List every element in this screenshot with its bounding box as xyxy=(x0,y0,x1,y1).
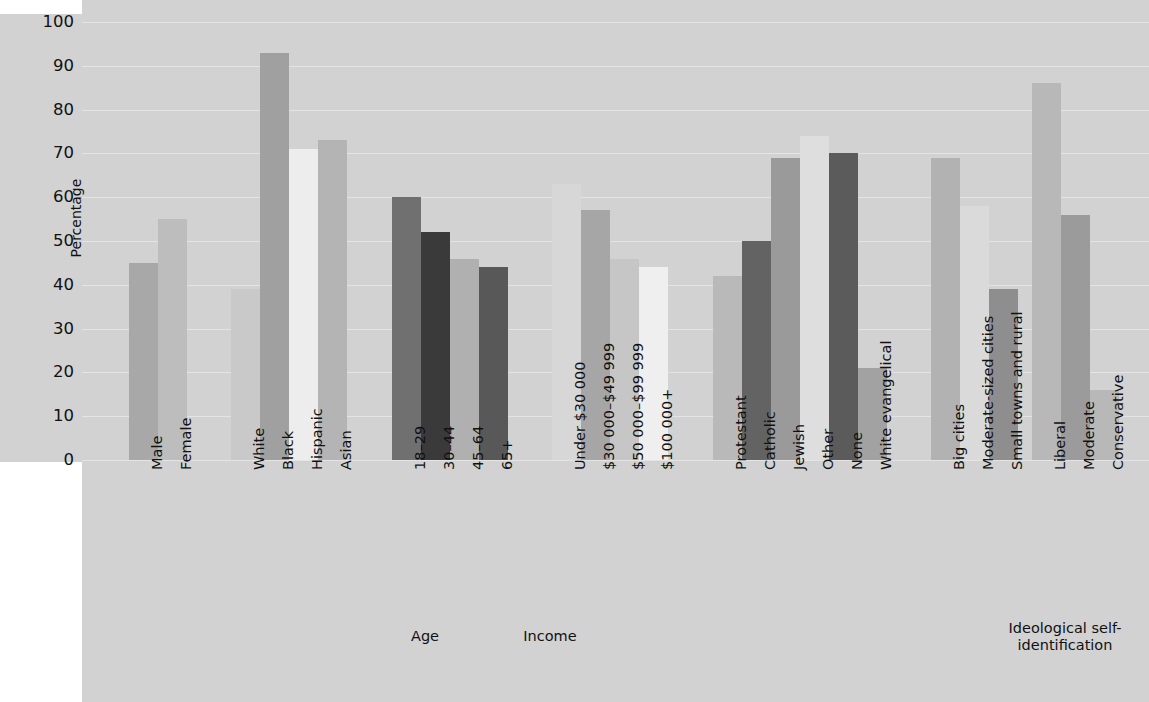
y-tick-label: 90 xyxy=(18,58,74,74)
y-tick-label: 40 xyxy=(18,277,74,293)
x-tick-label: Other xyxy=(821,429,836,470)
x-tick-label: 30–44 xyxy=(442,426,457,470)
y-tick-label: 0 xyxy=(18,452,74,468)
bar-chart-figure: 0102030405060708090100 Percentage MaleFe… xyxy=(0,0,1149,702)
x-tick-label: Hispanic xyxy=(310,408,325,470)
x-tick-label: None xyxy=(850,432,865,470)
x-tick-label: White evangelical xyxy=(879,341,894,470)
y-tick-label: 20 xyxy=(18,364,74,380)
y-axis-title: Percentage xyxy=(68,138,84,298)
x-tick-label: Liberal xyxy=(1053,421,1068,470)
y-tick-label: 30 xyxy=(18,321,74,337)
x-tick-label: $50 000–$99 999 xyxy=(631,343,646,470)
x-tick-label: Catholic xyxy=(763,411,778,470)
x-tick-label: White xyxy=(252,428,267,470)
y-tick-label: 80 xyxy=(18,102,74,118)
x-tick-label: Under $30 000 xyxy=(573,362,588,470)
y-tick-label: 60 xyxy=(18,189,74,205)
y-tick-label: 100 xyxy=(18,14,74,30)
x-tick-label: Moderate xyxy=(1082,401,1097,470)
group-label: Income xyxy=(505,628,595,645)
group-label: Age xyxy=(385,628,465,645)
x-tick-label: Jewish xyxy=(792,424,807,470)
x-tick-label: 45–64 xyxy=(471,426,486,470)
x-tick-label: Big cities xyxy=(952,404,967,470)
x-tick-label: Black xyxy=(281,431,296,470)
x-tick-label: Female xyxy=(179,418,194,470)
x-tick-label: Small towns and rural xyxy=(1010,311,1025,470)
x-tick-label: 65+ xyxy=(500,439,515,470)
x-tick-label: Moderate-sized cities xyxy=(981,316,996,470)
x-tick-label: $30 000–$49 999 xyxy=(602,343,617,470)
x-tick-label: Conservative xyxy=(1111,375,1126,470)
x-tick-label: $100 000+ xyxy=(660,389,675,470)
group-label: Ideological self-identification xyxy=(1000,620,1130,654)
y-tick-label: 50 xyxy=(18,233,74,249)
x-tick-label: 18–29 xyxy=(413,426,428,470)
y-tick-label: 10 xyxy=(18,408,74,424)
y-tick-label: 70 xyxy=(18,145,74,161)
x-tick-label: Male xyxy=(150,436,165,470)
y-axis-ticks: 0102030405060708090100 xyxy=(0,0,1149,702)
x-tick-label: Asian xyxy=(339,430,354,470)
x-tick-label: Protestant xyxy=(734,395,749,470)
